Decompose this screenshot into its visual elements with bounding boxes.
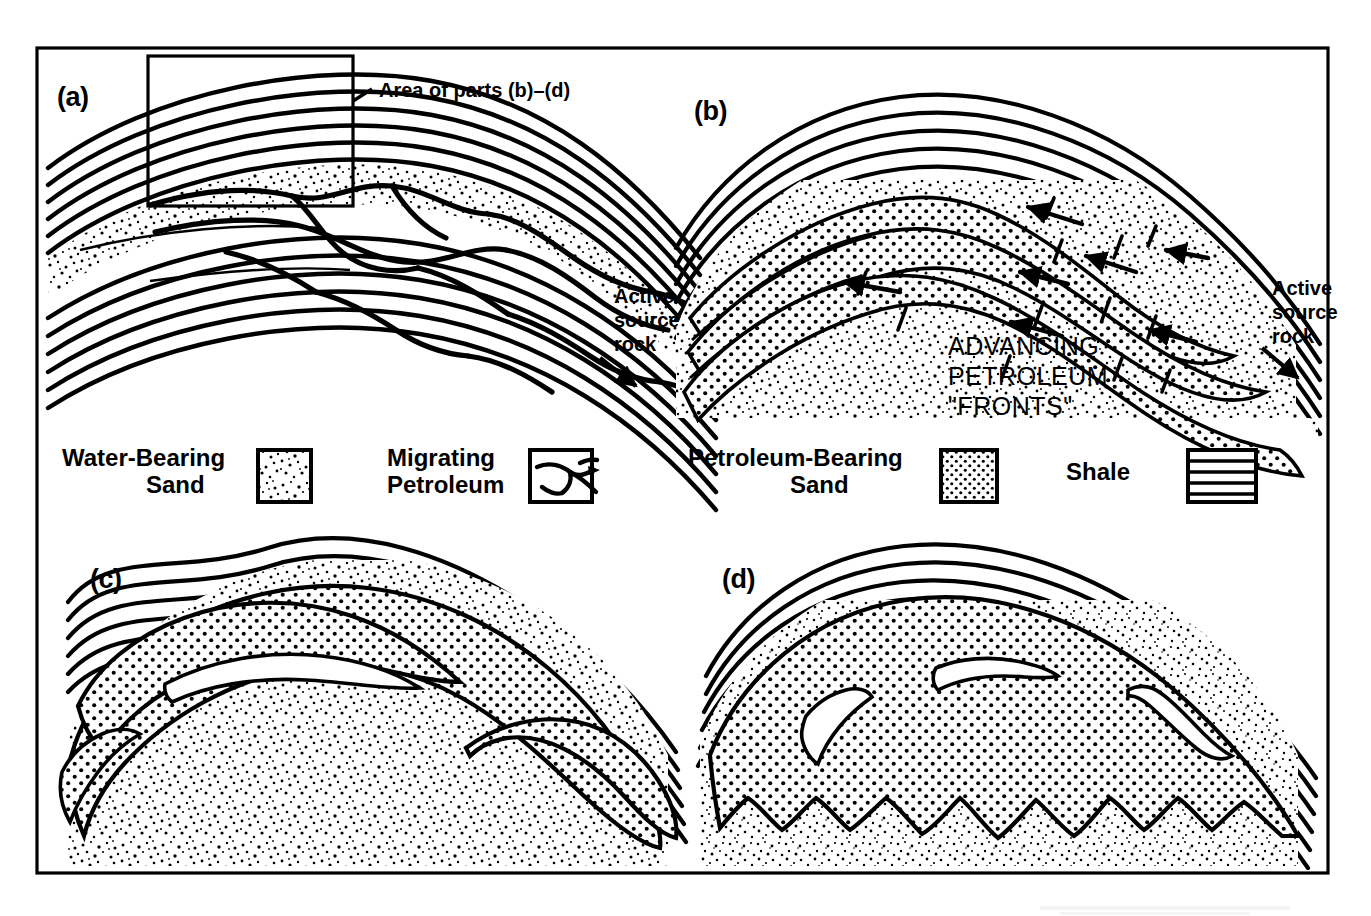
panel-d-label: (d) [722, 564, 755, 594]
panel-b-source-line3: rock [1272, 325, 1315, 347]
fronts-line3: "FRONTS" [948, 392, 1073, 420]
fronts-line1: ADVANCING [948, 332, 1099, 360]
fronts-line2: PETROLEUM [948, 362, 1108, 390]
panel-c-label: (c) [90, 564, 122, 594]
legend-label-oil-sand-line1: Petroleum-Bearing [688, 444, 903, 471]
legend-label-migrating-line1: Migrating [387, 444, 495, 471]
legend-label-oil-sand-line2: Sand [790, 471, 849, 498]
panel-a-source-line3: rock [614, 333, 657, 355]
legend-swatch-shale [1188, 450, 1256, 502]
legend-swatch-water-bearing-sand [258, 450, 311, 502]
legend-item-migrating-petroleum: Migrating Petroleum [387, 444, 600, 502]
legend-label-water-sand-line1: Water-Bearing [62, 444, 225, 471]
panel-b-label: (b) [694, 96, 727, 126]
panel-a-label: (a) [57, 82, 89, 112]
petroleum-migration-figure: (a) Area of parts (b)–(d) Active source … [0, 0, 1371, 916]
legend-label-water-sand-line2: Sand [146, 471, 205, 498]
legend-swatch-petroleum-bearing-sand [941, 450, 997, 502]
panel-a-source-line2: source [614, 309, 680, 331]
panel-b-source-line2: source [1272, 301, 1338, 323]
legend-swatch-migrating-petroleum [530, 450, 600, 502]
panel-b-source-line1: Active [1272, 277, 1332, 299]
panel-a-inset-caption: Area of parts (b)–(d) [379, 79, 570, 101]
legend-label-migrating-line2: Petroleum [387, 471, 504, 498]
panel-a-source-line1: Active [614, 285, 674, 307]
legend-label-shale: Shale [1066, 458, 1130, 485]
figure-root: (a) Area of parts (b)–(d) Active source … [0, 0, 1371, 916]
